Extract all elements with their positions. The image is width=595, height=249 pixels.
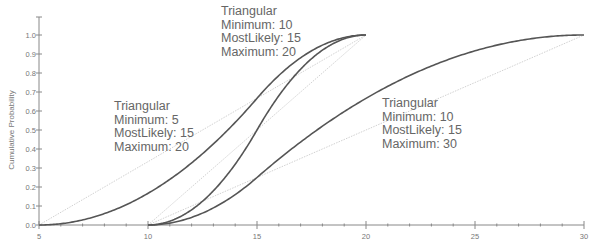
y-tick-label: 0.6 (26, 107, 36, 116)
y-tick-label: 0.0 (26, 221, 36, 230)
x-tick-label: 5 (37, 232, 41, 241)
annotation-line: MostLikely: 15 (382, 124, 462, 138)
annotation-line: Minimum: 10 (382, 111, 462, 125)
annotation-line: Triangular (221, 5, 301, 19)
y-tick-label: 0.2 (26, 183, 36, 192)
reference-line (148, 35, 584, 225)
y-axis-label: Cumulative Probability (7, 90, 16, 170)
y-tick-label: 0.5 (26, 126, 36, 135)
x-tick-label: 30 (580, 232, 588, 241)
annotation-tri-10-15-30: Triangular Minimum: 10 MostLikely: 15 Ma… (382, 97, 462, 151)
annotation-line: Minimum: 5 (114, 114, 194, 128)
y-tick-label: 0.3 (26, 164, 36, 173)
x-tick-label: 10 (144, 232, 152, 241)
y-tick-label: 0.8 (26, 69, 36, 78)
annotation-line: Maximum: 30 (382, 138, 462, 152)
annotation-line: Triangular (114, 100, 194, 114)
annotation-tri-10-15-20: Triangular Minimum: 10 MostLikely: 15 Ma… (221, 5, 301, 59)
x-tick-label: 20 (362, 232, 370, 241)
y-tick-label: 0.1 (26, 202, 36, 211)
y-tick-label: 0.9 (26, 50, 36, 59)
y-tick-label: 0.7 (26, 88, 36, 97)
annotation-line: Minimum: 10 (221, 19, 301, 33)
annotation-line: MostLikely: 15 (114, 127, 194, 141)
y-tick-label: 1.0 (26, 31, 36, 40)
y-tick-label: 0.4 (26, 145, 36, 154)
annotation-line: Maximum: 20 (221, 46, 301, 60)
annotation-line: Maximum: 20 (114, 141, 194, 155)
x-tick-label: 15 (253, 232, 261, 241)
axes: 0.00.10.20.30.40.50.60.70.80.91.05101520… (26, 17, 589, 241)
annotation-line: Triangular (382, 97, 462, 111)
x-tick-label: 25 (471, 232, 479, 241)
annotation-line: MostLikely: 15 (221, 32, 301, 46)
annotation-tri-5-15-20: Triangular Minimum: 5 MostLikely: 15 Max… (114, 100, 194, 154)
